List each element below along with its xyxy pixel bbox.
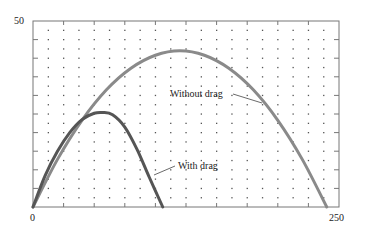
x-tick-label-start: 0 [30,212,35,223]
trajectory-chart: Without dragWith drag 50 0 250 [0,0,366,231]
series-line-with-drag [33,112,163,207]
annotation-arrow-with-drag [154,166,175,175]
annotations: Without dragWith drag [154,88,262,175]
series-lines [33,51,327,207]
series-line-without-drag [33,51,327,207]
annotation-without-drag: Without drag [170,88,223,99]
y-tick-label-top: 50 [14,15,24,26]
annotation-with-drag: With drag [178,160,218,171]
x-tick-label-end: 250 [329,212,344,223]
